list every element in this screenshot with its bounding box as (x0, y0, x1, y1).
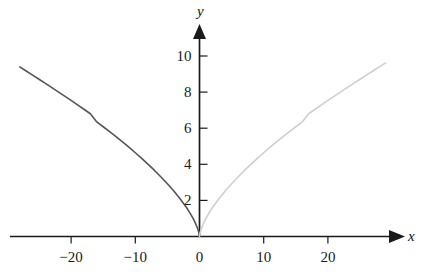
curve-right-branch (200, 63, 386, 237)
x-tick-label: 10 (250, 250, 278, 265)
x-tick-label: 20 (314, 250, 342, 265)
y-tick-label: 10 (162, 49, 192, 64)
graph-figure: −20−1001020 246810 y x (0, 0, 421, 276)
y-tick-label: 2 (162, 193, 192, 208)
x-tick-label: 0 (186, 250, 214, 265)
x-tick-label: −10 (121, 250, 149, 265)
y-tick-label: 8 (162, 85, 192, 100)
x-axis-label: x (408, 229, 415, 244)
y-tick-label: 6 (162, 121, 192, 136)
x-axis-arrow-icon (389, 230, 405, 243)
plot-canvas (0, 0, 421, 276)
y-axis-ticks (200, 56, 208, 200)
x-axis-ticks (71, 237, 328, 244)
y-axis-arrow-icon (193, 24, 206, 39)
y-axis-label: y (197, 4, 204, 19)
y-tick-label: 4 (162, 157, 192, 172)
x-tick-label: −20 (57, 250, 85, 265)
